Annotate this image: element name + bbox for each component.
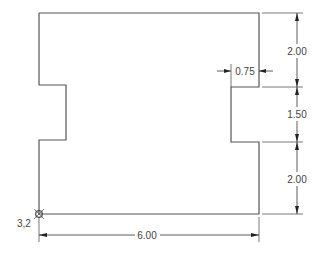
dim-label-notch-depth: 0.75 [235, 66, 255, 77]
origin-marker-icon [34, 209, 44, 219]
dim-label-bottom-height: 2.00 [287, 174, 307, 185]
dim-label-top-height: 2.00 [287, 46, 307, 57]
part-outline [39, 13, 259, 214]
dim-label-overall-width: 6.00 [137, 230, 157, 241]
origin-coordinate-label: 3,2 [17, 218, 31, 229]
cad-drawing: 2.00 1.50 2.00 0.75 6.00 3,2 [0, 0, 325, 259]
dim-label-notch-height: 1.50 [287, 109, 307, 120]
